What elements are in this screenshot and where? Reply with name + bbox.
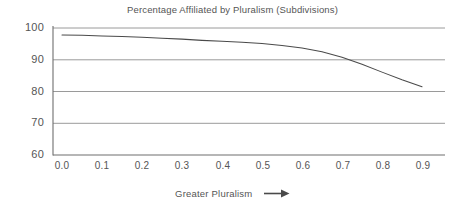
data-series-line [62, 35, 422, 87]
ytick-label-80: 80 [18, 85, 44, 97]
xtick-label-0: 0.0 [45, 160, 79, 171]
ytick-label-60: 60 [18, 148, 44, 160]
ytick-label-100: 100 [18, 21, 44, 33]
arrow-right-icon [264, 184, 290, 202]
xtick-label-3: 0.3 [165, 160, 199, 171]
x-axis-title-label: Greater Pluralism [175, 188, 252, 199]
plot-area [0, 0, 465, 210]
xtick-label-6: 0.6 [286, 160, 320, 171]
x-axis-title: Greater Pluralism [0, 184, 465, 203]
xtick-label-5: 0.5 [246, 160, 280, 171]
chart-figure: Percentage Affiliated by Pluralism (Subd… [0, 0, 465, 210]
ytick-label-70: 70 [18, 116, 44, 128]
ytick-label-90: 90 [18, 53, 44, 65]
xtick-label-2: 0.2 [125, 160, 159, 171]
xtick-label-4: 0.4 [206, 160, 240, 171]
xtick-label-1: 0.1 [85, 160, 119, 171]
xtick-label-8: 0.8 [366, 160, 400, 171]
xtick-label-9: 0.9 [406, 160, 440, 171]
xtick-label-7: 0.7 [326, 160, 360, 171]
